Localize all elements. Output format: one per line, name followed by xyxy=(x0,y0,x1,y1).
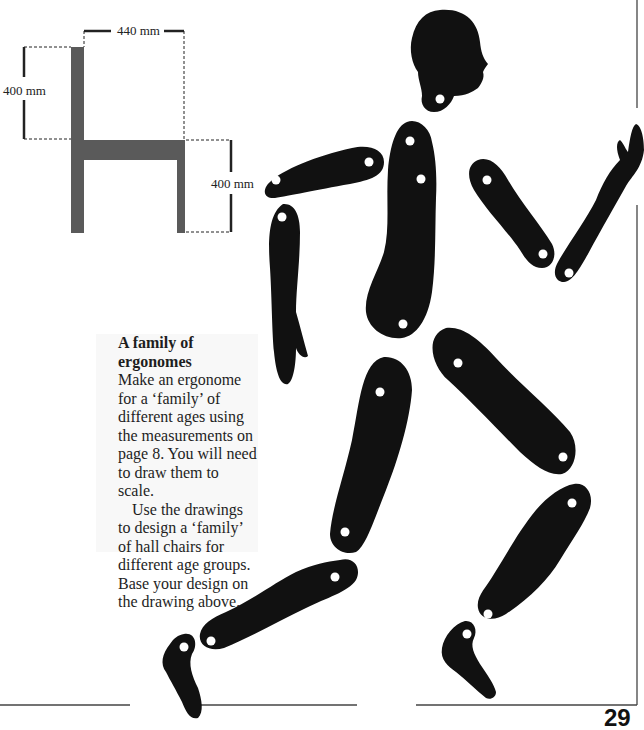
activity-text-box: A family of ergonomes Make an ergonome f… xyxy=(96,334,258,552)
activity-paragraph-2: Use the drawings to design a ‘family’ of… xyxy=(118,501,258,612)
activity-paragraph-1: Make an ergonome for a ‘family’ of diffe… xyxy=(118,371,258,501)
dimension-label-width: 440 mm xyxy=(117,24,160,38)
figure-thigh-right xyxy=(433,328,576,474)
chair-diagram xyxy=(24,31,231,233)
dimension-label-back-height: 400 mm xyxy=(3,84,46,98)
figure-forearm-left xyxy=(269,204,308,384)
figure-forearm-right xyxy=(555,124,644,282)
figure-head xyxy=(411,10,488,112)
dimension-label-seat-height: 400 mm xyxy=(211,177,254,191)
dimension-lines xyxy=(24,31,231,232)
page-number: 29 xyxy=(604,706,631,730)
figure-upper-arm-left xyxy=(265,147,384,198)
figure-thigh-left xyxy=(330,357,412,553)
activity-title: A family of ergonomes xyxy=(118,334,258,371)
chair-shape xyxy=(71,47,185,233)
